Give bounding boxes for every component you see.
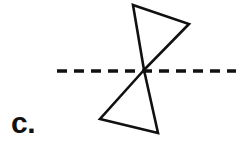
part-label: c. — [11, 107, 35, 139]
upper-triangle — [133, 5, 189, 70]
lower-triangle — [100, 70, 158, 133]
figure-canvas: c. — [0, 0, 240, 147]
geometry-figure-svg — [0, 0, 240, 147]
